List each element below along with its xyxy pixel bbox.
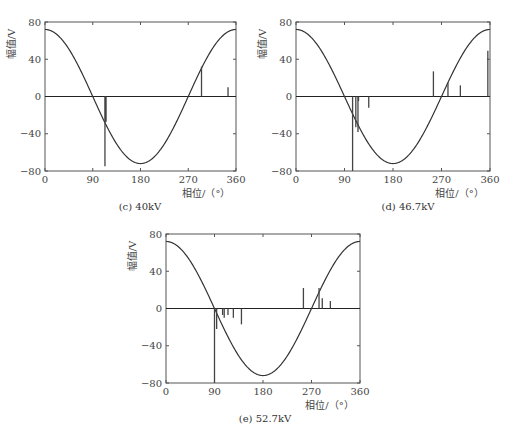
x-axis-label: 相位/（°）	[435, 187, 483, 199]
chart-panel-d: 80400−40−80090180270360幅值/V相位/（°）	[254, 0, 508, 215]
x-tick-label: 90	[86, 174, 99, 185]
chart-panel-e: 80400−40−80090180270360幅值/V相位/（°）	[120, 212, 374, 441]
chart-caption-c: (c) 40kV	[90, 201, 190, 212]
y-tick-label: 40	[28, 54, 41, 65]
y-tick-label: 40	[149, 266, 162, 277]
x-tick-label: 270	[302, 386, 321, 397]
x-tick-label: 360	[350, 386, 369, 397]
x-tick-label: 180	[131, 174, 150, 185]
x-tick-label: 180	[253, 386, 272, 397]
y-tick-label: −80	[20, 166, 41, 177]
x-axis-label: 相位/（°）	[305, 399, 353, 411]
x-tick-label: 270	[179, 174, 198, 185]
chart-caption-e: (e) 52.7kV	[210, 413, 320, 424]
y-tick-label: −40	[20, 128, 41, 139]
y-tick-label: 0	[35, 91, 41, 102]
y-tick-label: 0	[286, 91, 292, 102]
x-tick-label: 90	[338, 174, 351, 185]
y-tick-label: 80	[149, 229, 162, 240]
y-axis-label: 幅值/V	[126, 240, 138, 271]
x-tick-label: 0	[293, 174, 299, 185]
x-tick-label: 180	[383, 174, 402, 185]
x-tick-label: 360	[226, 174, 245, 185]
y-tick-label: −80	[271, 166, 292, 177]
x-tick-label: 360	[480, 174, 499, 185]
y-tick-label: 0	[156, 303, 162, 314]
x-axis-label: 相位/（°）	[182, 187, 230, 199]
chart-panel-c: 80400−40−80090180270360幅值/V相位/（°）	[0, 0, 254, 215]
x-tick-label: 90	[208, 386, 221, 397]
y-axis-label: 幅值/V	[256, 28, 268, 59]
chart-e-svg: 80400−40−80090180270360幅值/V相位/（°）	[120, 212, 374, 441]
x-tick-label: 0	[42, 174, 48, 185]
chart-d-svg: 80400−40−80090180270360幅值/V相位/（°）	[254, 0, 508, 215]
y-tick-label: −40	[271, 128, 292, 139]
chart-caption-d: (d) 46.7kV	[353, 201, 463, 212]
y-tick-label: 80	[28, 17, 41, 28]
x-tick-label: 0	[163, 386, 169, 397]
x-tick-label: 270	[432, 174, 451, 185]
y-tick-label: 40	[279, 54, 292, 65]
y-tick-label: −40	[141, 340, 162, 351]
y-tick-label: −80	[141, 378, 162, 389]
y-axis-label: 幅值/V	[5, 28, 17, 59]
y-tick-label: 80	[279, 17, 292, 28]
chart-c-svg: 80400−40−80090180270360幅值/V相位/（°）	[0, 0, 254, 215]
